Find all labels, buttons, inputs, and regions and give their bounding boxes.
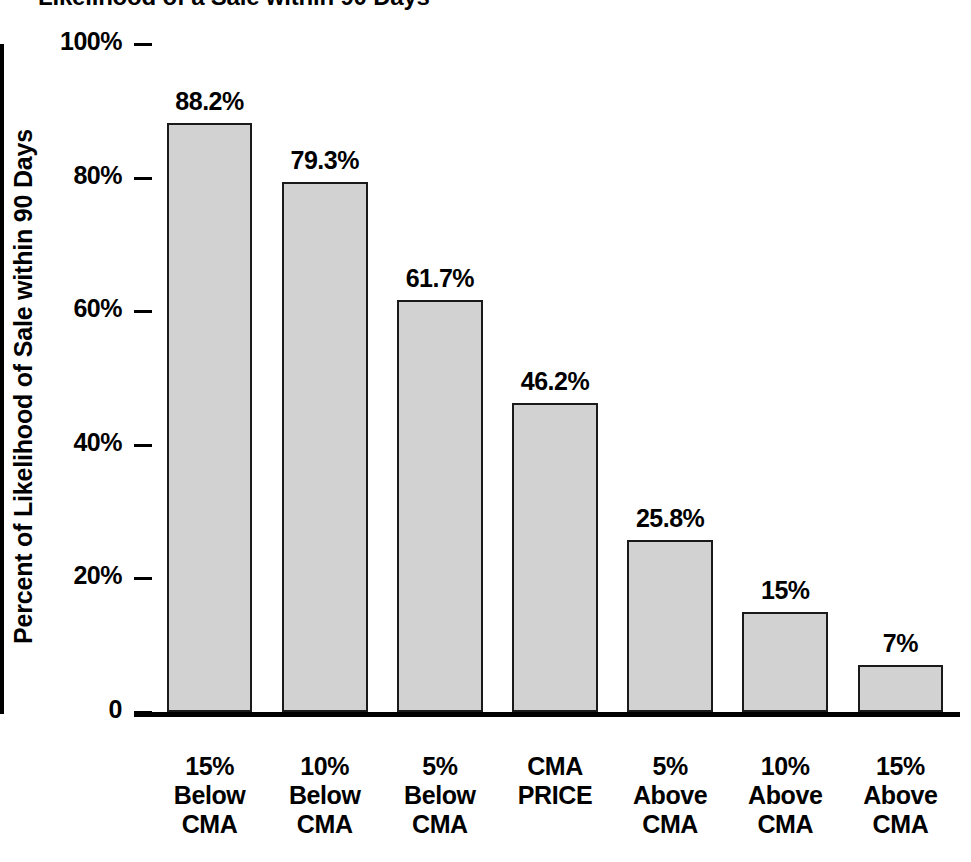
y-axis-tick-mark (134, 577, 152, 580)
x-axis-category-label-line: 10% (728, 752, 843, 781)
x-axis-category-label-line: PRICE (497, 781, 612, 810)
bar-group: 88.2% (167, 44, 253, 712)
x-axis-category-label-line: Below (267, 781, 382, 810)
bar (512, 403, 598, 712)
y-axis-tick-mark (134, 444, 152, 447)
bar (282, 182, 368, 712)
y-axis-line (0, 44, 4, 714)
x-axis-category-label-line: 10% (267, 752, 382, 781)
bar-group: 15% (742, 44, 828, 712)
bar-group: 46.2% (512, 44, 598, 712)
y-axis-tick-label: 100% (2, 27, 122, 56)
y-axis-tick-mark (134, 310, 152, 313)
bar (167, 123, 253, 712)
x-axis-category-label: CMAPRICE (497, 752, 612, 810)
y-axis-tick-mark (134, 43, 152, 46)
x-axis-category-label-line: CMA (152, 810, 267, 839)
y-axis-tick-mark (134, 177, 152, 180)
bar-value-label: 79.3% (291, 146, 359, 175)
plot-area: 88.2%79.3%61.7%46.2%25.8%15%7% (152, 44, 958, 712)
x-axis-category-label-line: CMA (728, 810, 843, 839)
x-axis-category-label-line: 15% (843, 752, 958, 781)
x-axis-category-label-line: 5% (613, 752, 728, 781)
y-axis-title: Percent of Likelihood of Sale within 90 … (9, 37, 38, 737)
x-axis-category-label: 15%BelowCMA (152, 752, 267, 839)
x-axis-category-label-line: Below (382, 781, 497, 810)
bar-group: 25.8% (627, 44, 713, 712)
bar-value-label: 88.2% (175, 87, 243, 116)
y-axis-tick-label: 40% (2, 428, 122, 457)
x-axis-category-label-line: CMA (843, 810, 958, 839)
chart-page: Likelihood of a Sale within 90 Days Perc… (0, 0, 971, 862)
bar (397, 300, 483, 712)
x-axis-category-label: 5%AboveCMA (613, 752, 728, 839)
y-axis-tick-mark (134, 711, 152, 714)
bar-value-label: 61.7% (406, 264, 474, 293)
bar-group: 7% (858, 44, 944, 712)
bar-value-label: 15% (761, 576, 810, 605)
x-axis-line (134, 712, 960, 717)
x-axis-category-label-line: Above (843, 781, 958, 810)
bar-group: 79.3% (282, 44, 368, 712)
x-axis-category-label: 10%BelowCMA (267, 752, 382, 839)
chart-title: Likelihood of a Sale within 90 Days (38, 0, 838, 11)
y-axis-tick-label: 20% (2, 561, 122, 590)
x-axis-category-label: 15%AboveCMA (843, 752, 958, 839)
y-axis-tick-label: 60% (2, 294, 122, 323)
x-axis-category-label-line: Above (613, 781, 728, 810)
x-axis-category-label-line: CMA (497, 752, 612, 781)
y-axis-tick-label: 0 (2, 695, 122, 724)
x-axis-category-label: 5%BelowCMA (382, 752, 497, 839)
x-axis-category-label-line: CMA (613, 810, 728, 839)
bar (858, 665, 944, 712)
y-axis-tick-label: 80% (2, 161, 122, 190)
x-axis-category-label-line: CMA (382, 810, 497, 839)
bar (742, 612, 828, 712)
bar-value-label: 46.2% (521, 367, 589, 396)
x-axis-category-label-line: Below (152, 781, 267, 810)
x-axis-category-label-line: CMA (267, 810, 382, 839)
bar-value-label: 7% (883, 629, 918, 658)
x-axis-category-label: 10%AboveCMA (728, 752, 843, 839)
bar-value-label: 25.8% (636, 504, 704, 533)
x-axis-category-label-line: 15% (152, 752, 267, 781)
x-axis-category-label-line: Above (728, 781, 843, 810)
bar (627, 540, 713, 712)
x-axis-category-label-line: 5% (382, 752, 497, 781)
bar-group: 61.7% (397, 44, 483, 712)
